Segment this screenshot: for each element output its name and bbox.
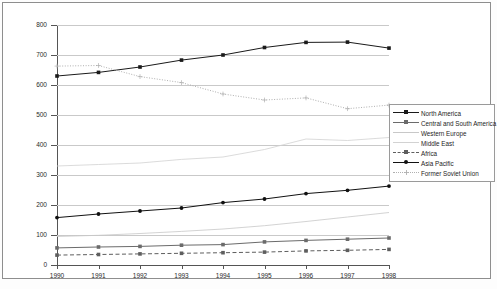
data-point — [55, 253, 59, 257]
data-point — [387, 248, 391, 252]
x-tick — [57, 265, 58, 269]
data-point — [263, 240, 267, 244]
data-point — [221, 53, 225, 57]
chart-legend: North AmericaCentral and South AmericaWe… — [389, 104, 495, 182]
x-tick-label: 1990 — [37, 272, 77, 279]
y-tick-label: 400 — [5, 141, 47, 148]
chart-frame: Billion cubic metres 0100200300400500600… — [2, 2, 491, 279]
x-tick-label: 1991 — [79, 272, 119, 279]
x-tick — [389, 265, 390, 269]
x-tick-label: 1995 — [245, 272, 285, 279]
legend-swatch-icon — [393, 138, 419, 148]
legend-marker-icon — [404, 120, 408, 124]
data-point — [263, 46, 267, 50]
data-point — [387, 184, 391, 188]
data-point — [97, 212, 101, 216]
y-tick-label: 0 — [5, 261, 47, 268]
data-point — [262, 98, 267, 103]
data-point — [55, 216, 59, 220]
data-point — [138, 65, 142, 69]
data-point — [387, 46, 391, 50]
data-point — [180, 58, 184, 62]
data-point — [97, 253, 101, 257]
legend-item[interactable]: Asia Pacific — [393, 158, 492, 168]
legend-label: Africa — [419, 150, 437, 157]
data-point — [263, 197, 267, 201]
series-line — [57, 213, 389, 237]
series-line — [57, 138, 389, 167]
data-point — [180, 206, 184, 210]
y-tick-label: 600 — [5, 81, 47, 88]
data-point — [221, 92, 226, 97]
data-point — [55, 74, 59, 78]
legend-label: North America — [419, 110, 461, 117]
data-point — [179, 80, 184, 85]
y-tick-label: 100 — [5, 231, 47, 238]
legend-label: Asia Pacific — [419, 160, 454, 167]
data-point — [180, 252, 184, 256]
data-point — [304, 96, 309, 101]
data-point — [97, 71, 101, 75]
legend-swatch-icon — [393, 168, 419, 178]
data-point — [221, 243, 225, 247]
data-point — [138, 209, 142, 213]
data-point — [97, 245, 101, 249]
legend-swatch-icon — [393, 118, 419, 128]
x-tick — [348, 265, 349, 269]
legend-label: Central and South America — [419, 120, 496, 127]
data-point — [263, 250, 267, 254]
legend-marker-icon — [404, 110, 408, 114]
legend-item[interactable]: Western Europe — [393, 128, 492, 138]
data-point — [345, 106, 350, 111]
x-tick — [223, 265, 224, 269]
legend-swatch-icon — [393, 158, 419, 168]
data-point — [221, 201, 225, 205]
x-tick-label: 1992 — [120, 272, 160, 279]
data-point — [304, 192, 308, 196]
data-point — [138, 252, 142, 256]
plot-area — [57, 25, 389, 265]
data-point — [304, 249, 308, 253]
legend-label: Western Europe — [419, 130, 466, 137]
legend-marker-icon — [404, 170, 408, 174]
data-point — [304, 239, 308, 243]
x-tick — [140, 265, 141, 269]
legend-item[interactable]: Africa — [393, 148, 492, 158]
x-tick-label: 1994 — [203, 272, 243, 279]
series-lines — [57, 25, 389, 265]
y-tick-label: 800 — [5, 21, 47, 28]
legend-label: Former Soviet Union — [419, 170, 479, 177]
data-point — [55, 246, 59, 250]
x-tick — [306, 265, 307, 269]
data-point — [346, 249, 350, 253]
x-tick — [265, 265, 266, 269]
x-tick-label: 1993 — [162, 272, 202, 279]
data-point — [138, 245, 142, 249]
data-point — [346, 188, 350, 192]
data-point — [96, 63, 101, 68]
y-tick-label: 200 — [5, 201, 47, 208]
legend-label: Middle East — [419, 140, 454, 147]
series-line — [57, 66, 389, 109]
legend-item[interactable]: North America — [393, 108, 492, 118]
x-tick-label: 1997 — [328, 272, 368, 279]
series-line — [57, 42, 389, 76]
legend-item[interactable]: Middle East — [393, 138, 492, 148]
data-point — [346, 237, 350, 241]
legend-item[interactable]: Former Soviet Union — [393, 168, 492, 178]
x-tick — [99, 265, 100, 269]
legend-marker-icon — [404, 150, 408, 154]
data-point — [387, 236, 391, 240]
y-tick-label: 700 — [5, 51, 47, 58]
legend-swatch-icon — [393, 108, 419, 118]
legend-swatch-icon — [393, 148, 419, 158]
y-tick-label: 500 — [5, 111, 47, 118]
x-tick-label: 1998 — [369, 272, 409, 279]
data-point — [221, 251, 225, 255]
legend-item[interactable]: Central and South America — [393, 118, 492, 128]
data-point — [304, 41, 308, 45]
y-tick-label: 300 — [5, 171, 47, 178]
data-point — [346, 40, 350, 44]
data-point — [180, 243, 184, 247]
data-point — [55, 64, 60, 69]
